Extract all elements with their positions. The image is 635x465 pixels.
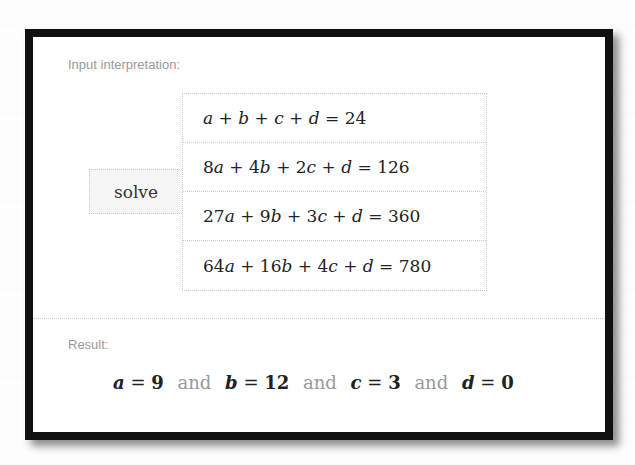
solution-var-b: b bbox=[225, 372, 238, 393]
solve-operation-cell: solve bbox=[89, 169, 182, 214]
var-b: b bbox=[281, 256, 292, 276]
input-interpretation-label: Input interpretation: bbox=[68, 57, 180, 72]
var-c: c bbox=[317, 206, 327, 226]
section-divider bbox=[33, 318, 605, 319]
var-d: d bbox=[352, 206, 363, 226]
solution-var-c: c bbox=[351, 372, 362, 393]
equation-row-3: 27 a + 9 b + 3 c + d = 360 bbox=[183, 192, 486, 241]
var-d: d bbox=[363, 256, 374, 276]
equation-rhs: = 360 bbox=[363, 206, 421, 226]
equation-row-4: 64 a + 16 b + 4 c + d = 780 bbox=[183, 241, 486, 290]
result-label: Result: bbox=[68, 337, 108, 352]
var-a: a bbox=[214, 157, 224, 177]
conjunction: and bbox=[414, 372, 448, 393]
result-panel-frame: Input interpretation: solve a + b + c + … bbox=[25, 29, 613, 440]
equation-row-2: 8 a + 4 b + 2 c + d = 126 bbox=[183, 143, 486, 192]
var-c: c bbox=[328, 256, 338, 276]
var-d: d bbox=[341, 157, 352, 177]
conjunction: and bbox=[177, 372, 211, 393]
equation-rhs: = 126 bbox=[352, 157, 410, 177]
equation-row-1: a + b + c + d = 24 bbox=[183, 94, 486, 143]
equations-table: a + b + c + d = 24 8 a + 4 b + 2 c + d =… bbox=[182, 93, 487, 291]
equation-rhs: = 24 bbox=[320, 108, 367, 128]
result-solution: a = 9 and b = 12 and c = 3 and d = 0 bbox=[113, 372, 514, 393]
var-a: a bbox=[203, 108, 213, 128]
equation-rhs: = 780 bbox=[374, 256, 432, 276]
var-a: a bbox=[225, 206, 235, 226]
solution-value-b: 12 bbox=[264, 372, 289, 393]
var-d: d bbox=[309, 108, 320, 128]
var-c: c bbox=[274, 108, 284, 128]
var-b: b bbox=[260, 157, 271, 177]
var-b: b bbox=[238, 108, 249, 128]
solution-value-c: 3 bbox=[388, 372, 401, 393]
conjunction: and bbox=[303, 372, 337, 393]
var-b: b bbox=[271, 206, 282, 226]
solution-var-d: d bbox=[462, 372, 475, 393]
var-c: c bbox=[307, 157, 317, 177]
solution-var-a: a bbox=[113, 372, 125, 393]
solution-value-a: 9 bbox=[151, 372, 164, 393]
var-a: a bbox=[225, 256, 235, 276]
solution-value-d: 0 bbox=[501, 372, 514, 393]
